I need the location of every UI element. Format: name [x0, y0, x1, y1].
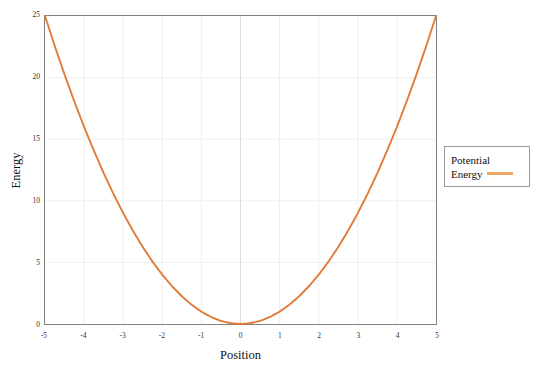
- legend-entry-row: Energy: [451, 167, 529, 181]
- y-tick-label: 0: [26, 320, 40, 329]
- x-axis-title: Position: [0, 348, 481, 363]
- legend-line-swatch: [487, 172, 513, 174]
- legend[interactable]: Potential Energy: [444, 146, 530, 187]
- x-tick-label: 5: [427, 331, 447, 340]
- x-tick-label: -4: [73, 331, 93, 340]
- legend-label-line1: Potential: [451, 153, 529, 167]
- x-tick-label: 4: [388, 331, 408, 340]
- x-tick-label: -2: [152, 331, 172, 340]
- x-tick-label: 1: [270, 331, 290, 340]
- y-tick-label: 5: [26, 258, 40, 267]
- y-axis-title: Energy: [9, 131, 24, 211]
- x-tick-label: 3: [348, 331, 368, 340]
- y-tick-label: 20: [26, 72, 40, 81]
- potential-energy-curve: [45, 16, 436, 324]
- chart-figure: 0510152025 -5-4-3-2-1012345 Position Ene…: [0, 0, 537, 370]
- x-tick-label: -5: [34, 331, 54, 340]
- legend-label-line2: Energy: [451, 167, 483, 181]
- plot-area: [44, 15, 437, 325]
- x-tick-label: 2: [309, 331, 329, 340]
- x-tick-label: 0: [231, 331, 251, 340]
- y-tick-label: 15: [26, 134, 40, 143]
- legend-inner: Potential Energy: [445, 147, 529, 186]
- y-tick-label: 25: [26, 10, 40, 19]
- data-curve-layer: [45, 16, 436, 324]
- y-tick-label: 10: [26, 196, 40, 205]
- x-tick-label: -1: [191, 331, 211, 340]
- x-tick-label: -3: [113, 331, 133, 340]
